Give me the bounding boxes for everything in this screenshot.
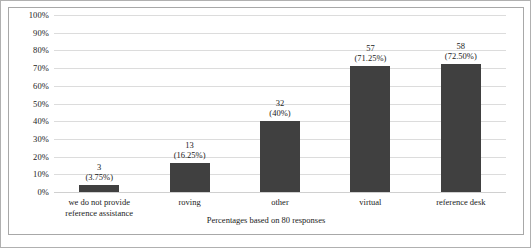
y-axis-tick-label: 10% <box>33 170 49 179</box>
y-axis-tick-label: 20% <box>33 152 49 161</box>
bar-percent-label: (16.25%) <box>174 150 206 160</box>
y-axis-tick-label: 0% <box>37 188 49 197</box>
bar-series: 3(3.75%)we do not providereference assis… <box>54 15 506 192</box>
bar-value-label: 13(16.25%) <box>174 140 206 160</box>
category-label-line: other <box>271 197 288 208</box>
bar-percent-label: (72.50%) <box>445 51 477 61</box>
bar-percent-label: (71.25%) <box>354 53 386 63</box>
bar-group[interactable]: 32(40%)other <box>235 15 325 192</box>
bar-count-label: 58 <box>445 41 477 51</box>
bar-percent-label: (40%) <box>269 108 290 118</box>
y-axis-tick-label: 60% <box>33 82 49 91</box>
bar-count-label: 13 <box>174 140 206 150</box>
bar-value-label: 3(3.75%) <box>85 162 113 182</box>
bar[interactable] <box>350 66 390 192</box>
bar-group[interactable]: 3(3.75%)we do not providereference assis… <box>54 15 144 192</box>
y-axis-tick-label: 30% <box>33 135 49 144</box>
x-axis-category-label: roving <box>178 197 200 208</box>
bar[interactable] <box>441 64 481 192</box>
category-label-line: roving <box>178 197 200 208</box>
category-label-line: we do not provide <box>65 197 133 208</box>
bar-value-label: 32(40%) <box>269 98 290 118</box>
x-axis-category-label: reference desk <box>436 197 485 208</box>
y-axis-tick-label: 90% <box>33 28 49 37</box>
chart-figure: 100%90%80%70%60%50%40%30%20%10%0% 3(3.75… <box>0 0 531 248</box>
y-axis-tick-label: 80% <box>33 46 49 55</box>
bar-value-label: 57(71.25%) <box>354 43 386 63</box>
bar[interactable] <box>170 163 210 192</box>
bar-count-label: 57 <box>354 43 386 53</box>
y-axis-tick-label: 40% <box>33 117 49 126</box>
x-axis-category-label: other <box>271 197 288 208</box>
bar[interactable] <box>260 121 300 192</box>
x-axis-category-label: virtual <box>359 197 381 208</box>
y-axis-tick-label: 100% <box>29 11 49 20</box>
bar-count-label: 3 <box>85 162 113 172</box>
chart-caption: Percentages based on 80 responses <box>9 215 523 225</box>
bar-count-label: 32 <box>269 98 290 108</box>
category-label-line: reference desk <box>436 197 485 208</box>
bar-value-label: 58(72.50%) <box>445 41 477 61</box>
y-axis-tick-label: 70% <box>33 64 49 73</box>
bar-group[interactable]: 58(72.50%)reference desk <box>416 15 506 192</box>
plot-area: 100%90%80%70%60%50%40%30%20%10%0% 3(3.75… <box>54 15 506 192</box>
y-axis-tick-label: 50% <box>33 99 49 108</box>
gridline <box>54 192 506 193</box>
bar-group[interactable]: 57(71.25%)virtual <box>325 15 415 192</box>
chart-plot-frame: 100%90%80%70%60%50%40%30%20%10%0% 3(3.75… <box>8 7 524 235</box>
bar-percent-label: (3.75%) <box>85 172 113 182</box>
bar-group[interactable]: 13(16.25%)roving <box>144 15 234 192</box>
bar[interactable] <box>79 185 119 192</box>
category-label-line: virtual <box>359 197 381 208</box>
